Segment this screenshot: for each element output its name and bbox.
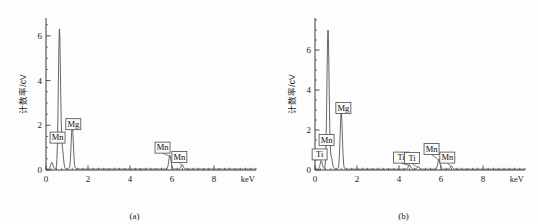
- peak-leader-line: [447, 163, 451, 167]
- x-axis-tick-label: 4: [128, 174, 133, 184]
- panel-b-caption: (b): [269, 211, 538, 221]
- x-axis-unit-label: keV: [510, 174, 525, 184]
- peak-leader-line: [163, 153, 170, 156]
- spectrum-trace: [46, 29, 256, 169]
- peak-label-text: Mg: [67, 119, 80, 129]
- spectrum-plot-a: 02468keV0246计数率/cVMnMgMnMn: [0, 0, 269, 224]
- spectrum-plot-b: 02468keV0246计数率/cVTiMnMgTiTiMnMn: [269, 0, 538, 224]
- x-axis-tick-label: 6: [170, 174, 175, 184]
- x-axis-tick-label: 8: [481, 174, 486, 184]
- peak-label-text: Mn: [173, 152, 186, 162]
- peak-leader-line: [412, 164, 418, 168]
- peak-label-mn-6: Mn: [440, 152, 455, 167]
- peak-label-mn-5: Mn: [424, 144, 439, 161]
- y-axis-tick-label: 6: [38, 31, 43, 41]
- y-axis-label: 计数率/cV: [18, 74, 28, 114]
- x-axis-tick-label: 6: [439, 174, 444, 184]
- peak-label-text: Mg: [337, 103, 350, 113]
- peak-label-ti-4: Ti: [405, 153, 420, 168]
- x-axis-tick-label: 2: [86, 174, 91, 184]
- y-axis-tick-label: 0: [307, 165, 312, 175]
- peak-label-ti-0: Ti: [312, 149, 327, 162]
- panel-b: 02468keV0246计数率/cVTiMnMgTiTiMnMn (b): [269, 0, 538, 224]
- x-axis-tick-label: 0: [44, 174, 49, 184]
- y-axis-tick-label: 4: [307, 85, 312, 95]
- peak-label-mg-1: Mg: [66, 119, 81, 130]
- y-axis-tick-label: 6: [307, 45, 312, 55]
- peak-label-text: Ti: [408, 153, 416, 163]
- x-axis-unit-label: keV: [241, 174, 256, 184]
- eds-spectra-figure: 02468keV0246计数率/cVMnMgMnMn (a) 02468keV0…: [0, 0, 538, 224]
- peak-label-mn-1: Mn: [319, 135, 334, 146]
- panel-a-caption: (a): [0, 211, 269, 221]
- y-axis-tick-label: 0: [38, 165, 43, 175]
- y-axis-tick-label: 2: [307, 125, 312, 135]
- peak-label-text: Mn: [441, 152, 454, 162]
- x-axis-tick-label: 0: [313, 174, 318, 184]
- peak-label-text: Mn: [157, 142, 170, 152]
- y-axis-label: 计数率/cV: [287, 74, 297, 114]
- x-axis-tick-label: 4: [397, 174, 402, 184]
- peak-label-text: Mn: [52, 132, 65, 142]
- y-axis-tick-label: 2: [38, 120, 43, 130]
- y-axis-tick-label: 4: [38, 76, 43, 86]
- peak-leader-line: [179, 163, 182, 166]
- peak-label-text: Mn: [426, 144, 439, 154]
- peak-label-text: Ti: [316, 149, 324, 159]
- peak-label-mn-3: Mn: [172, 152, 187, 166]
- panel-a: 02468keV0246计数率/cVMnMgMnMn (a): [0, 0, 269, 224]
- peak-label-mn-2: Mn: [155, 142, 170, 156]
- x-axis-tick-label: 2: [355, 174, 360, 184]
- peak-label-mn-0: Mn: [50, 132, 65, 143]
- peak-label-text: Mn: [321, 135, 334, 145]
- spectrum-trace: [315, 30, 525, 169]
- x-axis-tick-label: 8: [212, 174, 217, 184]
- peak-leader-line: [432, 155, 439, 161]
- peak-label-mg-2: Mg: [336, 103, 351, 114]
